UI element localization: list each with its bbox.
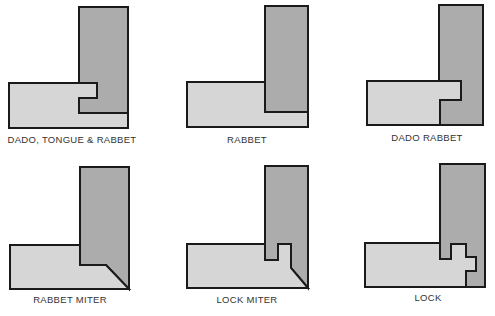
horizontal-board	[365, 243, 476, 287]
label-lock: LOCK	[414, 292, 441, 303]
label-lock-miter: LOCK MITER	[216, 294, 277, 305]
vertical-board	[265, 6, 308, 112]
joint-rabbet-miter	[10, 167, 129, 289]
joint-rabbet	[187, 6, 308, 127]
label-rabbet-miter: RABBET MITER	[33, 294, 107, 305]
label-dado-rabbet: DADO RABBET	[391, 132, 462, 143]
label-dado-tongue-rabbet: DADO, TONGUE & RABBET	[8, 134, 137, 145]
label-rabbet: RABBET	[227, 134, 267, 145]
joint-lock	[365, 164, 485, 287]
joint-diagrams	[0, 0, 495, 316]
vertical-board	[439, 5, 483, 125]
joint-lock-miter	[187, 166, 308, 288]
joint-dado-tongue-rabbet	[9, 7, 128, 128]
horizontal-board	[187, 244, 308, 288]
joint-dado-rabbet	[367, 5, 483, 125]
